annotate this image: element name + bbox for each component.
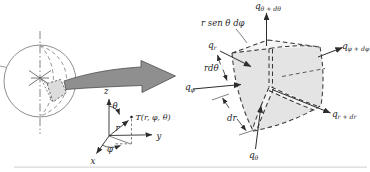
- phi-angle-label: φ: [107, 144, 113, 154]
- dim-width-label: r sen θ dφ: [201, 18, 245, 28]
- label-q-theta-dtheta-sub: θ + dθ: [261, 5, 282, 12]
- dr-dim-arrow-down: [237, 119, 246, 131]
- page-edge-line: [0, 66, 7, 68]
- label-q-r-dr-sub: r + dr: [338, 113, 358, 120]
- label-q-r-sub: r: [214, 44, 218, 51]
- element-body-fill: [232, 40, 323, 131]
- dr-dim-tick-bottom: [239, 130, 256, 136]
- dim-dr-label: dr: [227, 113, 237, 123]
- x-axis-label: x: [91, 156, 96, 166]
- y-axis: [109, 135, 152, 136]
- rdtheta-dim-arrow-down: [223, 70, 227, 81]
- label-q-theta-sub: θ: [255, 154, 259, 161]
- width-label-leader-line: [236, 29, 247, 43]
- label-q-r: q r: [208, 40, 218, 51]
- dr-dim-arrow-up: [223, 98, 230, 108]
- q-phi-dphi-arrow: [318, 48, 343, 58]
- dr-dim-tick-top: [212, 94, 229, 100]
- label-q-theta-dtheta: q θ + dθ: [255, 1, 281, 12]
- z-axis-label: z: [103, 86, 109, 96]
- y-axis-label: y: [156, 131, 162, 141]
- theta-angle-label: θ: [113, 101, 118, 111]
- point-T-label: T(r, φ, θ): [136, 113, 171, 122]
- label-q-phi-dphi: q φ + dφ: [342, 41, 370, 53]
- label-q-phi-sub: φ: [191, 86, 196, 94]
- label-q-phi: q φ: [185, 82, 196, 94]
- point-T-dot: [130, 116, 133, 119]
- volume-element: r sen θ dφ rdθ dr q θ + dθ q r q φ q θ q…: [185, 1, 370, 161]
- sphere-differential-element: [47, 80, 67, 103]
- label-q-r-dr: q r + dr: [332, 109, 358, 120]
- zoom-arrow-icon: [64, 61, 176, 93]
- q-phi-arrow: [193, 85, 241, 90]
- dim-rdtheta-label: rdθ: [204, 63, 219, 73]
- spherical-coordinates-figure: z y x θ φ r T(r, φ, θ) r sen θ dφ: [0, 0, 370, 172]
- r-projection-line: [109, 136, 130, 144]
- coordinate-system: z y x θ φ r T(r, φ, θ): [91, 86, 171, 166]
- label-q-phi-dphi-sub: φ + dφ: [348, 45, 370, 53]
- label-q-theta: q θ: [249, 150, 259, 161]
